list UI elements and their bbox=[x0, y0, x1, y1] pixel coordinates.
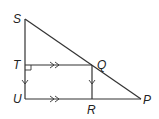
label-q: Q bbox=[97, 58, 106, 72]
right-angle-mark bbox=[25, 65, 31, 70]
label-p: P bbox=[143, 93, 151, 107]
label-t: T bbox=[13, 58, 22, 72]
segment-sp bbox=[25, 19, 141, 99]
label-u: U bbox=[13, 92, 22, 106]
geometry-diagram: S T U Q R P bbox=[0, 0, 159, 119]
label-s: S bbox=[13, 12, 21, 26]
label-r: R bbox=[87, 103, 96, 117]
